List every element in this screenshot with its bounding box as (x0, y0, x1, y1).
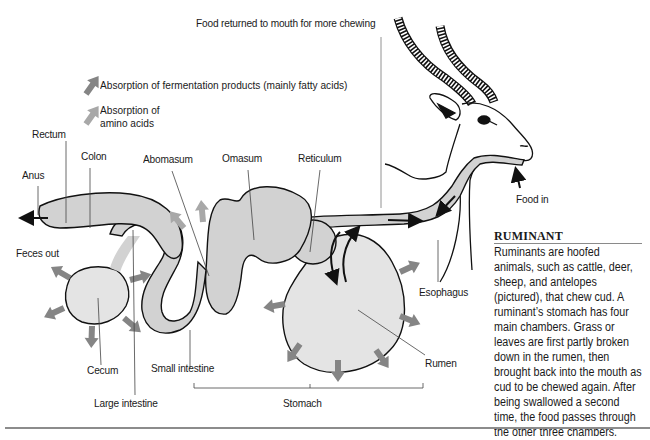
large-intestine-label: Large intestine (94, 397, 158, 410)
sidebar-body: Ruminants are hoofed animals, such as ca… (494, 245, 642, 440)
esophagus-label: Esophagus (419, 286, 468, 299)
sidebar-title: RUMINANT (494, 229, 563, 244)
bottom-divider (5, 427, 650, 429)
legend-amino-label-line2: amino acids (100, 117, 154, 130)
reticulum-label: Reticulum (298, 152, 341, 165)
omasum-label: Omasum (222, 152, 262, 165)
cecum-label: Cecum (87, 364, 118, 377)
food-returned-label: Food returned to mouth for more chewing (196, 17, 375, 30)
small-intestine-label: Small intestine (151, 362, 214, 375)
rumen-label: Rumen (425, 357, 457, 370)
ruminant-digestion-diagram: Food returned to mouth for more chewing … (0, 0, 650, 440)
digestive-tract (39, 155, 524, 372)
abomasum-label: Abomasum (143, 153, 193, 166)
food-in-label: Food in (516, 193, 549, 206)
colon-label: Colon (81, 150, 107, 163)
sidebar-title-rule (494, 243, 642, 244)
rectum-label: Rectum (32, 128, 66, 141)
legend-fermentation-label: Absorption of fermentation products (mai… (100, 79, 348, 92)
anus-label: Anus (22, 169, 44, 182)
stomach-label: Stomach (283, 397, 322, 410)
legend-amino-label-line1: Absorption of (100, 104, 160, 117)
cecum-shape (66, 267, 129, 324)
feces-out-label: Feces out (16, 247, 59, 260)
